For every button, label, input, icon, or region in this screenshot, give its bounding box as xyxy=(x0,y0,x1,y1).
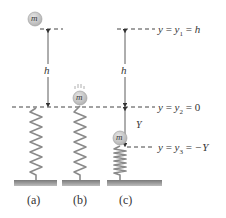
dimension-label-h-c: h xyxy=(121,64,127,77)
panel-label-b: (b) xyxy=(73,194,87,206)
dimension-label-Y: Y xyxy=(136,120,142,130)
ground-b xyxy=(62,180,100,186)
mass-label-b: m xyxy=(76,93,83,102)
spring-mass-diagram: m m m h h Y y = y1 = h y = y2 = 0 y = y3… xyxy=(0,0,226,218)
panel-label-a: (a) xyxy=(27,194,40,206)
mass-label-a: m xyxy=(31,14,38,23)
dimension-label-h-a: h xyxy=(44,64,50,77)
ground-a xyxy=(14,180,57,186)
level-label-y1: y = y1 = h xyxy=(158,24,200,38)
level-label-y3: y = y3 = −Y xyxy=(158,142,208,156)
spring-c xyxy=(114,146,126,180)
mass-label-c: m xyxy=(116,133,123,142)
panel-label-c: (c) xyxy=(119,194,132,206)
spring-a xyxy=(30,108,42,180)
motion-lines-icon xyxy=(75,84,84,89)
level-label-y2: y = y2 = 0 xyxy=(158,102,200,116)
ground-c xyxy=(107,180,162,186)
spring-b xyxy=(74,106,86,180)
